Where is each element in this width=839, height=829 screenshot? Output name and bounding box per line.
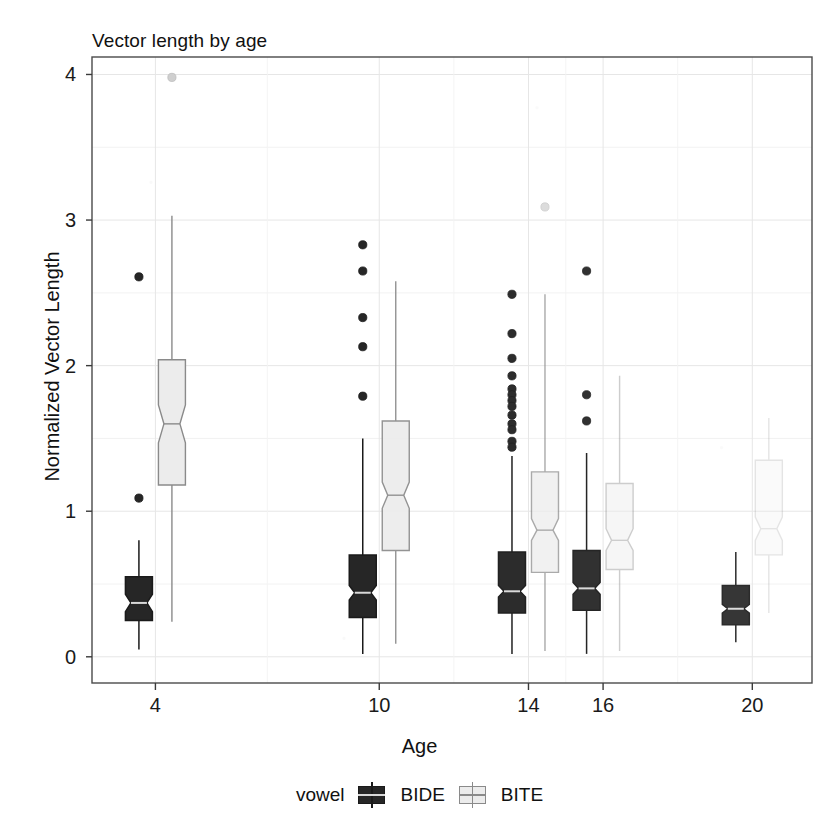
plot-area [0, 0, 839, 829]
legend-label-bite: BITE [501, 784, 543, 806]
legend-key-bite [456, 782, 490, 808]
chart-figure: Vector length by age Normalized Vector L… [0, 0, 839, 829]
legend-label-bide: BIDE [400, 784, 444, 806]
legend-title: vowel [296, 784, 345, 806]
legend: vowel BIDE BITE [0, 782, 839, 808]
legend-key-bide [355, 782, 389, 808]
